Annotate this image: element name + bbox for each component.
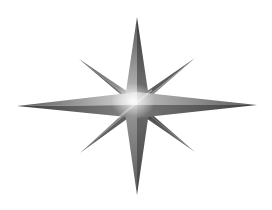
- point-east: [137, 92, 257, 105]
- compass-star-image: [0, 0, 272, 210]
- compass-star-icon: [0, 0, 272, 210]
- center-highlight: [111, 83, 155, 119]
